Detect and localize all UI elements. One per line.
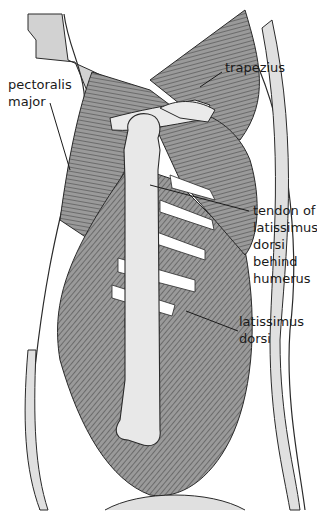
leader-pectoralis	[50, 103, 70, 170]
label-tendon-latissimus: tendon of latissimus dorsi behind humeru…	[253, 202, 317, 287]
label-pectoralis-major: pectoralis major	[8, 76, 72, 110]
label-trapezius: trapezius	[225, 59, 285, 76]
arm-side-left	[25, 350, 48, 510]
forearm-top	[105, 495, 245, 510]
label-latissimus-dorsi: latissimus dorsi	[239, 313, 304, 347]
